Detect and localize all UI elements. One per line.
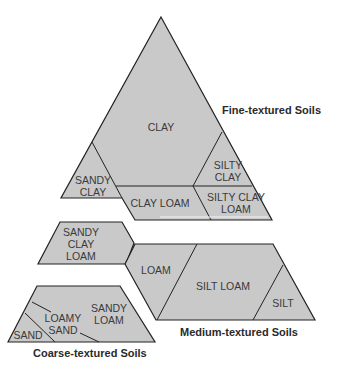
label-silt-loam: SILT LOAM [196,280,250,292]
fine-textured-group: CLAY SANDY CLAY SILTY CLAY CLAY LOAM SIL… [61,17,321,220]
label-silty-clay-loam-2: LOAM [221,203,251,215]
label-silty-clay: SILTY [214,159,242,171]
label-loamy-sand: LOAMY [45,312,82,324]
label-silt: SILT [272,297,294,309]
label-clay: CLAY [148,121,175,133]
label-sandy-clay-loam: SANDY [63,226,99,238]
label-silty-clay-loam: SILTY CLAY [207,191,265,203]
label-clay-loam: CLAY LOAM [130,197,189,209]
label-sandy-loam: SANDY [91,302,127,314]
label-sandy-clay-loam-2: CLAY [68,238,95,250]
soil-texture-diagram: CLAY SANDY CLAY SILTY CLAY CLAY LOAM SIL… [0,0,338,374]
fine-textured-label: Fine-textured Soils [222,104,321,116]
coarse-textured-label: Coarse-textured Soils [33,347,147,359]
label-sandy-loam-2: LOAM [94,314,124,326]
label-silty-clay-2: CLAY [215,171,242,183]
label-sandy-clay-2: CLAY [80,186,107,198]
label-sandy-clay-loam-3: LOAM [66,250,96,262]
medium-textured-label: Medium-textured Soils [180,326,298,338]
label-sand: SAND [13,329,43,341]
label-loam: LOAM [141,264,171,276]
coarse-textured-group: SAND LOAMY SAND SANDY LOAM Coarse-textur… [8,286,155,359]
label-loamy-sand-2: SAND [48,324,78,336]
label-sandy-clay: SANDY [75,174,111,186]
